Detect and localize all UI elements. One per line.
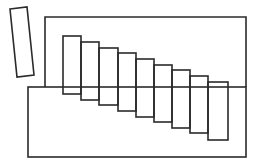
bar-1	[63, 36, 81, 94]
line-diagram	[0, 0, 255, 164]
bar-9	[208, 82, 228, 140]
back-rectangle	[45, 17, 246, 87]
bar-7	[172, 70, 190, 128]
bar-5	[136, 59, 154, 117]
front-rectangle	[28, 87, 246, 157]
tilted-rectangle	[10, 7, 34, 77]
bar-2	[81, 42, 99, 100]
bar-4	[118, 53, 136, 111]
bar-8	[190, 76, 208, 133]
bar-3	[99, 48, 118, 105]
bar-6	[154, 65, 172, 122]
